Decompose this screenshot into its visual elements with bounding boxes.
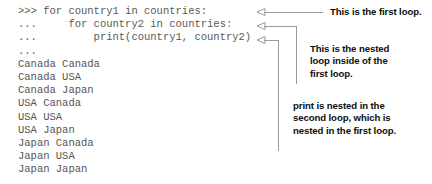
callout-print-nesting: print is nested in the second loop, whic…: [293, 100, 425, 137]
output-line: Canada Canada: [18, 58, 258, 71]
output-line: USA Japan: [18, 124, 258, 137]
leader-line-2: [264, 26, 296, 84]
python-repl-transcript: >>> for country1 in countries: ... for c…: [18, 5, 258, 177]
annotated-repl-figure: >>> for country1 in countries: ... for c…: [0, 0, 432, 184]
output-line: Japan Canada: [18, 137, 258, 150]
callout-line: loop inside of the: [310, 55, 422, 67]
code-line-blank-prompt: ...: [18, 45, 258, 58]
output-line: Japan Japan: [18, 163, 258, 176]
arrowhead-icon: [257, 9, 265, 16]
output-line: USA Canada: [18, 97, 258, 110]
callout-line: This is the first loop.: [330, 6, 432, 18]
output-line: Canada Japan: [18, 84, 258, 97]
callout-nested-loop: This is the nested loop inside of the fi…: [310, 43, 422, 80]
callout-line: print is nested in the: [293, 100, 425, 112]
leader-line-3: [264, 40, 278, 151]
callout-line: nested in the first loop.: [293, 125, 425, 137]
code-line-for-country1: >>> for country1 in countries:: [18, 5, 258, 18]
callout-line: This is the nested: [310, 43, 422, 55]
output-line: Japan USA: [18, 150, 258, 163]
callout-first-loop: This is the first loop.: [330, 6, 432, 18]
arrowhead-icon: [257, 23, 265, 30]
output-line: USA USA: [18, 111, 258, 124]
callout-line: second loop, which is: [293, 112, 425, 124]
output-line: Canada USA: [18, 71, 258, 84]
code-line-for-country2: ... for country2 in countries:: [18, 18, 258, 31]
arrowhead-icon: [257, 37, 265, 44]
callout-line: first loop.: [310, 68, 422, 80]
code-line-print: ... print(country1, country2): [18, 31, 258, 44]
